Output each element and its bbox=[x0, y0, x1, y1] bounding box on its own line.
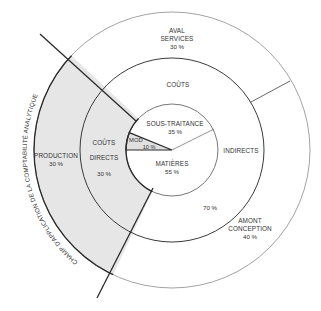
outer-ring-separator bbox=[251, 81, 290, 102]
production-label: PRODUCTION bbox=[34, 152, 78, 159]
amont-label-line1: AMONT bbox=[238, 217, 262, 224]
mod-pct: 10 % bbox=[143, 144, 156, 150]
sous-traitance-label: SOUS-TRAITANCE bbox=[146, 120, 203, 127]
couts-directs-pct: 30 % bbox=[97, 170, 112, 177]
aval-pct: 30 % bbox=[170, 43, 185, 50]
mod-label: MOD bbox=[129, 137, 143, 143]
aval-label-line2: SERVICES bbox=[160, 35, 193, 42]
amont-pct: 40 % bbox=[243, 233, 258, 240]
production-pct: 30 % bbox=[49, 160, 64, 167]
couts-directs-label-line2: DIRECTS bbox=[90, 154, 119, 161]
matieres-pct: 55 % bbox=[165, 168, 180, 175]
sous-traitance-pct: 35 % bbox=[168, 128, 183, 135]
aval-label-line1: AVAL bbox=[169, 27, 185, 34]
couts-indirects-label-top: COÛTS bbox=[167, 80, 190, 88]
matieres-label: MATIÈRES bbox=[156, 159, 189, 167]
couts-directs-label-line1: COÛTS bbox=[93, 138, 116, 146]
indirects-label: INDIRECTS bbox=[223, 147, 258, 154]
indirects-pct: 70 % bbox=[203, 204, 218, 211]
cost-structure-diagram: CHAMP D'APPLICATION DE LA COMPTABILITÉ A… bbox=[0, 0, 321, 311]
amont-label-line2: CONCEPTION bbox=[228, 225, 272, 232]
